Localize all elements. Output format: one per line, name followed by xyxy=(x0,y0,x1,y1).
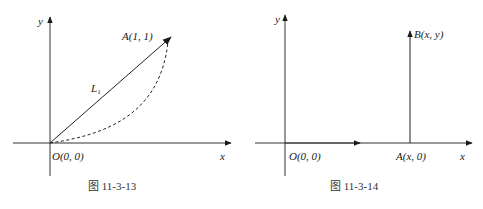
diagram-canvas xyxy=(0,0,483,209)
y-axis-label: y xyxy=(275,13,280,25)
x-axis-label: x xyxy=(460,150,465,162)
point-B-label: B(x, y) xyxy=(414,28,443,40)
x-axis-label: x xyxy=(220,150,225,162)
L1-label: L1 xyxy=(91,82,101,98)
point-A-label: A(x, 0) xyxy=(396,150,426,162)
figure-caption: 图 11-3-13 xyxy=(88,180,136,192)
point-A-label: A(1, 1) xyxy=(122,30,153,42)
origin-label: O(0, 0) xyxy=(289,150,321,162)
segment-L1 xyxy=(50,37,171,143)
L1-subscript: 1 xyxy=(97,88,101,96)
figure-caption: 图 11-3-14 xyxy=(330,180,378,192)
y-axis-label: y xyxy=(38,15,43,27)
origin-label: O(0, 0) xyxy=(52,150,84,162)
